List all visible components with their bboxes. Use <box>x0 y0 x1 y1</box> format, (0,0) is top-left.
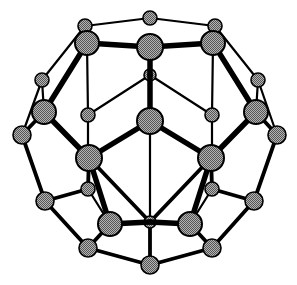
atom-node <box>137 108 163 134</box>
atom-node <box>81 182 95 196</box>
atom-node <box>79 239 97 257</box>
atom-node <box>141 256 159 274</box>
atom-node <box>268 126 286 144</box>
atom-node <box>75 31 99 55</box>
atom-node <box>205 182 219 196</box>
atom-node <box>137 34 163 60</box>
atom-node <box>178 212 202 236</box>
atom-node <box>245 192 263 210</box>
atom-node <box>32 100 56 124</box>
atom-node <box>36 192 54 210</box>
atom-node <box>201 31 225 55</box>
atom-node <box>244 100 268 124</box>
atom-node <box>76 145 102 171</box>
atom-node <box>81 108 95 122</box>
atom-node <box>13 126 31 144</box>
atom-node <box>98 212 122 236</box>
atom-node <box>143 11 157 25</box>
atom-node <box>205 108 219 122</box>
figure-root <box>0 0 297 285</box>
atom-node <box>251 73 265 87</box>
atom-node <box>198 145 224 171</box>
molecule-diagram <box>0 0 297 285</box>
atom-node <box>203 239 221 257</box>
atom-node <box>35 73 49 87</box>
